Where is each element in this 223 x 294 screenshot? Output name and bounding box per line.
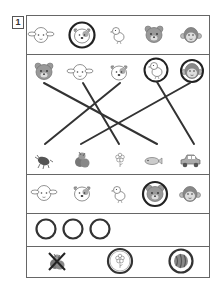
- chick-icon: [111, 28, 125, 45]
- monkey-icon: [181, 28, 202, 43]
- drawn-circle: [37, 220, 56, 239]
- row-2-top: [35, 59, 203, 83]
- drawn-circle: [64, 220, 83, 239]
- match-line: [83, 83, 119, 144]
- vegetables-icon: [75, 152, 90, 168]
- monkey-icon: [180, 187, 201, 202]
- match-line: [81, 83, 190, 144]
- chick-icon: [149, 63, 163, 80]
- bear-icon: [145, 26, 163, 43]
- beetle-icon: [35, 155, 53, 169]
- row-4-circles: [37, 220, 110, 239]
- sheep-icon: [67, 65, 93, 80]
- watermelon-icon: [174, 254, 188, 268]
- row-5: [49, 249, 193, 273]
- fish-icon: [145, 158, 162, 165]
- sheep-icon: [28, 28, 54, 43]
- chick-icon: [112, 187, 126, 204]
- worksheet-drawing: [0, 0, 223, 294]
- dog-icon: [111, 66, 127, 80]
- dog-icon: [74, 187, 90, 201]
- monkey-icon: [182, 64, 203, 79]
- matching-lines: [44, 82, 194, 144]
- row-2-bottom: [35, 152, 200, 169]
- bear-icon: [35, 63, 53, 80]
- dog-icon: [74, 29, 90, 43]
- match-line: [45, 83, 120, 144]
- row-3: [31, 182, 201, 206]
- bear-icon: [146, 185, 164, 202]
- drawn-circle: [91, 220, 110, 239]
- car-icon: [181, 155, 200, 167]
- flower-icon: [116, 153, 125, 167]
- row-1: [28, 23, 202, 48]
- sheep-icon: [31, 186, 57, 201]
